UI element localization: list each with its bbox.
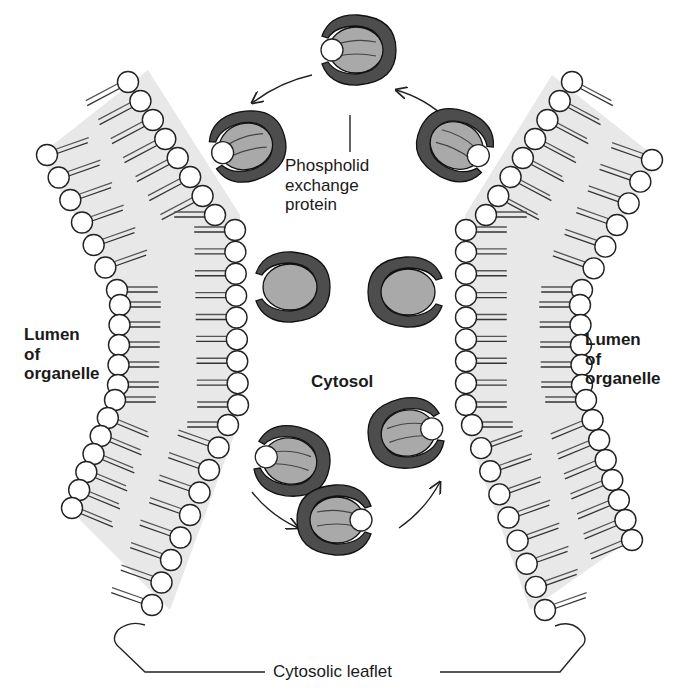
label-line: Lumen: [24, 325, 100, 345]
label-line: of: [24, 345, 100, 365]
exchange-protein: [203, 102, 294, 189]
label-line: Phospholid: [285, 156, 369, 176]
label-lumen-right: Lumen of organelle: [585, 330, 661, 389]
label-cytosolic-leaflet: Cytosolic leaflet: [268, 662, 397, 682]
exchange-protein: [368, 257, 442, 327]
label-lumen-left: Lumen of organelle: [24, 325, 100, 384]
arrow-left-to-bottom: [252, 492, 298, 528]
exchange-protein: [363, 392, 449, 474]
label-line: organelle: [24, 364, 100, 384]
exchange-protein: [256, 252, 330, 322]
exchange-protein: [321, 15, 396, 85]
arrow-bottom-to-right: [399, 482, 440, 528]
exchange-protein: [297, 485, 372, 555]
label-line: of: [585, 350, 661, 370]
label-phospholipid-exchange-protein: Phospholid exchange protein: [285, 156, 369, 215]
label-cytosol: Cytosol: [311, 372, 373, 392]
label-line: organelle: [585, 369, 661, 389]
arrow-top-to-left: [252, 75, 312, 103]
label-line: Lumen: [585, 330, 661, 350]
exchange-proteins: [203, 15, 503, 555]
label-line: exchange: [285, 176, 369, 196]
label-line: protein: [285, 195, 369, 215]
